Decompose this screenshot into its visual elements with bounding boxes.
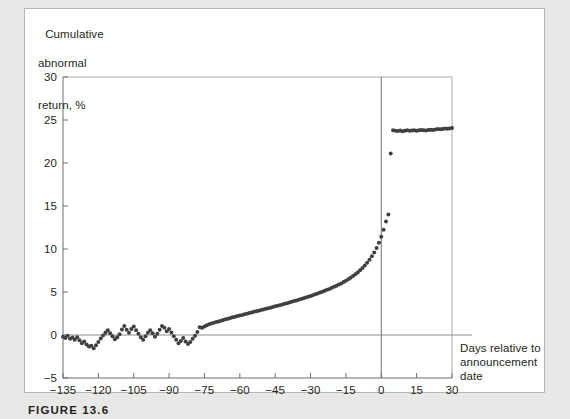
y-axis-title-line1: Cumulative xyxy=(45,28,104,40)
x-axis-title-line3: date xyxy=(460,370,483,382)
data-point xyxy=(372,250,376,254)
data-series-0 xyxy=(61,126,454,350)
x-axis-title-line1: Days relative to xyxy=(460,342,541,354)
data-point xyxy=(127,331,131,335)
chart-stage: Cumulative abnormal return, % Days relat… xyxy=(0,0,570,419)
data-point xyxy=(167,327,171,331)
data-point xyxy=(158,328,162,332)
data-point xyxy=(122,324,126,328)
y-axis-title-line3: return, % xyxy=(32,98,104,112)
data-point xyxy=(382,228,386,232)
data-point xyxy=(169,330,173,334)
y-tick-label: 5 xyxy=(17,286,57,298)
data-point xyxy=(96,340,100,344)
data-point xyxy=(195,330,199,334)
data-point xyxy=(375,246,379,250)
data-point xyxy=(181,336,185,340)
data-point xyxy=(389,152,393,156)
data-point xyxy=(134,328,138,332)
x-axis-title-line2: announcement xyxy=(460,356,537,368)
y-tick-label: 30 xyxy=(17,71,57,83)
data-point xyxy=(377,241,381,245)
data-point xyxy=(94,343,98,347)
data-point xyxy=(144,334,148,338)
data-point xyxy=(141,338,145,342)
x-tick-label: 30 xyxy=(430,384,474,396)
y-tick-label: 20 xyxy=(17,157,57,169)
data-point xyxy=(136,332,140,336)
data-point xyxy=(193,334,197,338)
data-point xyxy=(450,126,454,130)
y-tick-label: 0 xyxy=(17,329,57,341)
data-point xyxy=(120,327,124,331)
plot-frame xyxy=(63,77,452,378)
data-point xyxy=(151,331,155,335)
data-point xyxy=(162,326,166,330)
data-point xyxy=(155,332,159,336)
data-point xyxy=(386,213,390,217)
figure-caption: FIGURE 13.6 xyxy=(28,404,109,416)
x-axis-title: Days relative to announcement date xyxy=(460,341,565,384)
y-axis-title-line2: abnormal xyxy=(32,56,104,70)
data-point xyxy=(132,324,136,328)
data-point xyxy=(172,334,176,338)
y-tick-label: 25 xyxy=(17,114,57,126)
data-point xyxy=(384,219,388,223)
y-tick-label: −5 xyxy=(17,372,57,384)
data-point xyxy=(370,254,374,258)
data-point xyxy=(379,235,383,239)
data-point xyxy=(118,332,122,336)
y-tick-label: 15 xyxy=(17,200,57,212)
y-tick-label: 10 xyxy=(17,243,57,255)
data-point xyxy=(174,338,178,342)
data-point xyxy=(367,258,371,262)
